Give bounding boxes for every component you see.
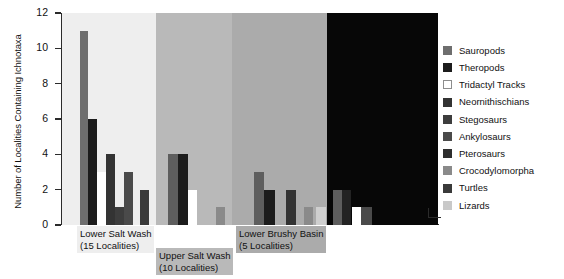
bar (106, 154, 115, 225)
group-caption-label: Lower Salt Wash (80, 228, 151, 240)
legend-item: Turtles (443, 180, 561, 197)
legend-item: Sauropods (443, 42, 561, 59)
legend-item: Lizards (443, 197, 561, 214)
bar (254, 172, 264, 225)
legend-swatch-icon (443, 115, 452, 124)
legend-item: Neornithischians (443, 94, 561, 111)
bar (352, 207, 361, 225)
legend-item-label: Sauropods (459, 46, 505, 56)
legend-item-label: Pterosaurs (459, 149, 505, 159)
legend-swatch-icon (443, 46, 452, 55)
legend-item: Crocodylomorpha (443, 162, 561, 179)
bar (80, 31, 88, 225)
group-caption-sublabel: (15 Localities) (80, 240, 151, 252)
bar (286, 190, 296, 225)
bar (342, 190, 351, 225)
bar (168, 154, 178, 225)
legend-swatch-icon (443, 132, 452, 141)
bar (361, 207, 372, 225)
bar (140, 190, 149, 225)
y-tick-label: 6 (14, 113, 48, 124)
legend-item: Ankylosaurs (443, 128, 561, 145)
legend-item: Tridactyl Tracks (443, 76, 561, 93)
group-background-band (232, 13, 327, 225)
legend-swatch-icon (443, 166, 452, 175)
y-tick-label: 2 (14, 184, 48, 195)
legend-item-label: Neornithischians (459, 97, 529, 107)
legend-item-label: Tridactyl Tracks (459, 80, 525, 90)
legend-swatch-icon (443, 63, 452, 72)
chart-legend: SauropodsTheropodsTridactyl TracksNeorni… (443, 42, 561, 214)
legend-swatch-icon (443, 201, 452, 210)
bar (316, 207, 326, 225)
legend-item-label: Lizards (459, 201, 490, 211)
legend-swatch-icon (443, 149, 452, 158)
bar (88, 119, 97, 225)
y-tick-label: 0 (14, 219, 48, 230)
legend-swatch-icon (443, 184, 452, 193)
legend-item: Pterosaurs (443, 145, 561, 162)
legend-swatch-icon (443, 80, 452, 89)
legend-item-label: Theropods (459, 63, 504, 73)
chart-root: Number of Localities Containing Ichnotax… (0, 0, 564, 279)
legend-item-label: Ankylosaurs (459, 132, 511, 142)
legend-item-label: Stegosaurs (459, 115, 507, 125)
group-caption-sublabel: (5 Localities) (239, 240, 323, 252)
group-caption: Lower Brushy Basin(5 Localities) (236, 226, 326, 253)
group-caption-sublabel: (10 Localities) (159, 262, 230, 274)
y-tick-label: 4 (14, 148, 48, 159)
legend-item-label: Turtles (459, 183, 488, 193)
group-caption: Upper Salt Wash(10 Localities) (156, 248, 233, 275)
legend-item-label: Crocodylomorpha (459, 166, 534, 176)
y-axis-tick-labels: 024681012 (0, 0, 52, 279)
legend-item: Theropods (443, 59, 561, 76)
legend-item: Stegosaurs (443, 111, 561, 128)
bar (264, 190, 275, 225)
bar (216, 207, 225, 225)
y-tick-label: 10 (14, 42, 48, 53)
bar (304, 207, 313, 225)
y-tick-label: 12 (14, 7, 48, 18)
bar (178, 154, 188, 225)
bar (333, 190, 342, 225)
plot-area (62, 13, 438, 225)
group-caption-label: Upper Salt Wash (159, 250, 230, 262)
bar (124, 172, 133, 225)
bar (188, 190, 197, 225)
group-caption-label: Lower Brushy Basin (239, 228, 323, 240)
y-tick-label: 8 (14, 78, 48, 89)
legend-bracket-icon (428, 208, 441, 218)
bar (97, 172, 106, 225)
group-caption: Lower Salt Wash(15 Localities) (77, 226, 154, 253)
bar (115, 207, 124, 225)
legend-swatch-icon (443, 98, 452, 107)
